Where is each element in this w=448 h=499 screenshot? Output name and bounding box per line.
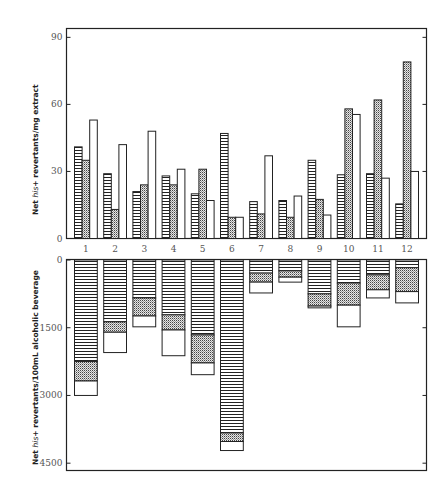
- segment-dotted: [396, 268, 419, 292]
- bar-group-12: [396, 62, 419, 239]
- bar-open: [353, 114, 361, 238]
- stacked-bar-5: [191, 260, 214, 375]
- top-x-axis-labels: 123456789101112: [83, 244, 413, 254]
- stacked-bar-2: [104, 260, 127, 353]
- bar-group-3: [133, 131, 156, 238]
- segment-open: [250, 282, 273, 293]
- stacked-bar-8: [279, 260, 302, 282]
- bar-striped: [279, 201, 287, 239]
- segment-dotted: [75, 362, 98, 381]
- bar-open: [265, 156, 273, 239]
- x-tick-label: 4: [171, 244, 177, 254]
- segment-striped: [337, 260, 360, 283]
- bar-open: [382, 178, 390, 238]
- bar-open: [294, 196, 302, 238]
- bar-striped: [75, 147, 83, 239]
- x-tick-label: 11: [372, 244, 383, 254]
- bar-dotted: [316, 199, 324, 238]
- bottom-bars: [75, 260, 419, 451]
- stacked-bar-4: [162, 260, 185, 356]
- segment-open: [221, 442, 244, 451]
- x-tick-label: 9: [317, 244, 323, 254]
- bar-group-10: [337, 109, 360, 239]
- bar-striped: [162, 176, 170, 239]
- segment-open: [191, 363, 214, 375]
- bar-open: [177, 169, 185, 238]
- bar-open: [236, 217, 244, 238]
- y-tick-label: 90: [51, 32, 63, 42]
- segment-striped: [396, 260, 419, 268]
- top-chart: 0306090 123456789101112 Net his+ reverta…: [31, 29, 427, 255]
- stacked-bar-7: [250, 260, 273, 293]
- bar-group-5: [191, 169, 214, 238]
- y-tick-label: 1500: [40, 323, 63, 333]
- bar-group-1: [75, 120, 98, 238]
- y-tick-label: 30: [51, 166, 63, 176]
- bar-striped: [396, 204, 404, 239]
- segment-dotted: [133, 298, 156, 316]
- stacked-bar-11: [367, 260, 390, 298]
- segment-dotted: [367, 275, 390, 290]
- bar-striped: [221, 133, 229, 238]
- segment-striped: [191, 260, 214, 335]
- y-tick-label: 3000: [40, 390, 63, 400]
- stacked-bar-12: [396, 260, 419, 303]
- x-tick-label: 7: [258, 244, 264, 254]
- x-tick-label: 5: [200, 244, 206, 254]
- segment-open: [337, 305, 360, 327]
- segment-dotted: [221, 433, 244, 442]
- x-tick-label: 8: [287, 244, 293, 254]
- segment-dotted: [250, 273, 273, 282]
- segment-striped: [75, 260, 98, 362]
- bar-dotted: [111, 209, 119, 238]
- bar-open: [207, 201, 215, 239]
- bar-striped: [133, 192, 141, 239]
- top-bars: [75, 62, 419, 239]
- segment-open: [133, 316, 156, 327]
- y-tick-label: 60: [51, 99, 63, 109]
- bar-dotted: [82, 160, 90, 238]
- x-tick-label: 1: [83, 244, 89, 254]
- segment-open: [75, 381, 98, 395]
- stacked-bar-1: [75, 260, 98, 395]
- bar-open: [323, 215, 331, 238]
- bar-dotted: [257, 214, 265, 239]
- segment-striped: [367, 260, 390, 275]
- bar-open: [148, 131, 156, 238]
- bar-striped: [337, 175, 345, 239]
- bar-dotted: [403, 62, 411, 239]
- bar-dotted: [170, 185, 178, 239]
- segment-dotted: [191, 335, 214, 363]
- bar-dotted: [345, 109, 353, 239]
- bar-striped: [191, 194, 199, 239]
- segment-open: [162, 330, 185, 356]
- x-tick-label: 12: [401, 244, 412, 254]
- segment-dotted: [279, 271, 302, 277]
- segment-open: [367, 290, 390, 298]
- bar-striped: [104, 174, 112, 239]
- stacked-bar-3: [133, 260, 156, 327]
- figure: 0306090 123456789101112 Net his+ reverta…: [0, 0, 448, 499]
- segment-striped: [279, 260, 302, 271]
- segment-dotted: [162, 315, 185, 330]
- bar-striped: [308, 160, 316, 238]
- bar-open: [411, 171, 419, 238]
- bar-open: [90, 120, 98, 238]
- segment-open: [104, 332, 127, 352]
- bar-striped: [250, 202, 258, 239]
- bottom-y-axis-title: Net his+ revertants/100mL alcoholic beve…: [31, 270, 40, 465]
- bar-group-8: [279, 196, 302, 238]
- segment-open: [308, 306, 331, 308]
- segment-open: [279, 277, 302, 282]
- segment-striped: [250, 260, 273, 273]
- segment-striped: [104, 260, 127, 322]
- bar-open: [119, 145, 127, 239]
- y-tick-label: 0: [57, 255, 63, 265]
- bar-group-6: [221, 133, 244, 238]
- x-tick-label: 2: [112, 244, 118, 254]
- bar-dotted: [228, 217, 236, 238]
- segment-striped: [162, 260, 185, 315]
- stacked-bar-9: [308, 260, 331, 308]
- segment-striped: [221, 260, 244, 433]
- bar-group-7: [250, 156, 273, 239]
